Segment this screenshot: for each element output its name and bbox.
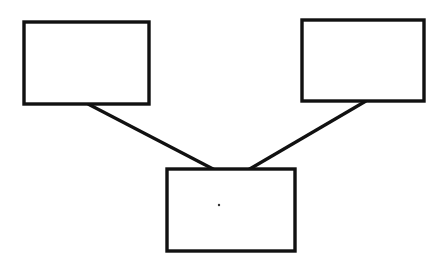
node-top-left bbox=[24, 22, 149, 104]
center-dot-mark bbox=[218, 204, 220, 206]
node-top-right bbox=[302, 20, 424, 101]
edge-top-right-to-bottom bbox=[248, 101, 366, 170]
edge-top-left-to-bottom bbox=[88, 104, 215, 170]
diagram-canvas bbox=[0, 0, 445, 274]
node-bottom-center bbox=[167, 169, 295, 251]
